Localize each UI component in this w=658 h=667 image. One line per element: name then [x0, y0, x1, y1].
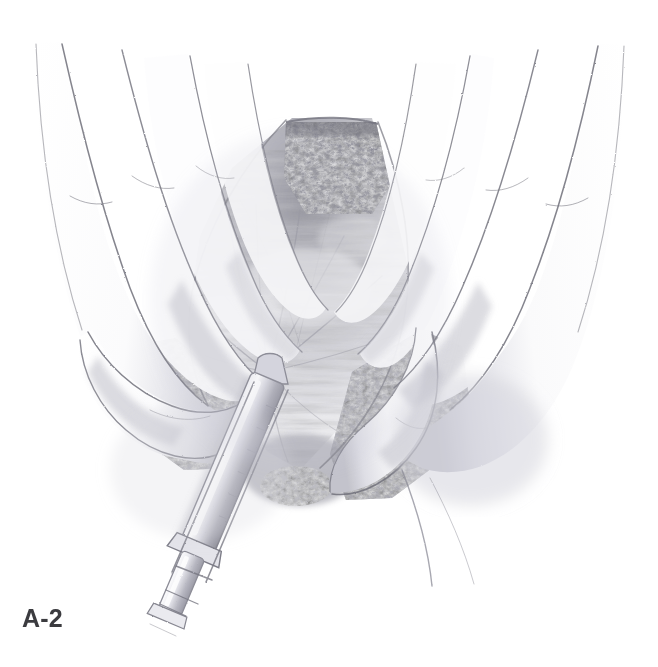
surgical-illustration: Surgical illustration: gloved fingers re…	[0, 0, 658, 667]
figure-container: Surgical illustration: gloved fingers re…	[0, 0, 658, 667]
figure-label: A-2	[22, 606, 63, 631]
paper-grain	[0, 0, 658, 667]
